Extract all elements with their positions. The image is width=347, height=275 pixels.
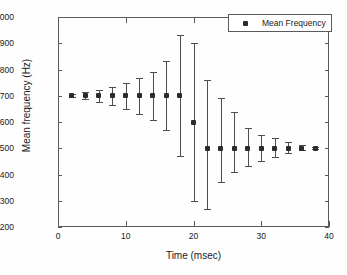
error-bar [234, 112, 235, 173]
y-tick-mark [325, 227, 329, 228]
legend-marker-icon [243, 21, 248, 26]
error-bar-cap [272, 157, 279, 158]
error-bar-cap [258, 161, 265, 162]
error-bar-cap [231, 112, 238, 113]
data-point-marker [218, 146, 223, 151]
y-tick-mark [325, 175, 329, 176]
data-point-marker [150, 93, 155, 98]
legend: Mean Frequency [228, 14, 332, 32]
y-tick-label: 1700 [0, 92, 14, 101]
data-point-marker [164, 93, 169, 98]
error-bar-cap [109, 105, 116, 106]
data-point-marker [272, 146, 277, 151]
error-bar-cap [191, 43, 198, 44]
data-point-marker [313, 146, 318, 151]
data-point-marker [69, 93, 74, 98]
error-bar-cap [123, 109, 130, 110]
x-tick-mark [329, 221, 330, 227]
y-tick-label: 1500 [0, 144, 14, 153]
y-tick-label: 1400 [0, 171, 14, 180]
data-point-marker [191, 120, 196, 125]
error-bar-cap [163, 61, 170, 62]
y-tick-mark [325, 148, 329, 149]
y-tick-mark [58, 122, 62, 123]
x-tick-mark [261, 221, 262, 227]
data-point-marker [110, 93, 115, 98]
y-tick-mark [58, 70, 62, 71]
x-tick-label: 40 [314, 232, 344, 241]
error-bar-cap [204, 80, 211, 81]
error-bar-cap [218, 182, 225, 183]
error-bar-cap [150, 120, 157, 121]
data-point-marker [245, 146, 250, 151]
y-tick-label: 1300 [0, 197, 14, 206]
error-bar-cap [245, 128, 252, 129]
error-bar-cap [191, 201, 198, 202]
x-tick-mark [126, 221, 127, 227]
error-bar-cap [177, 35, 184, 36]
error-bar [207, 80, 208, 209]
data-point-marker [205, 146, 210, 151]
x-tick-label: 10 [111, 232, 141, 241]
y-tick-mark [325, 96, 329, 97]
y-tick-label: 1800 [0, 66, 14, 75]
y-axis-title: Mean frequency (Hz) [21, 26, 32, 186]
x-tick-label: 20 [179, 232, 209, 241]
y-tick-label: 1200 [0, 223, 14, 232]
x-axis-title: Time (msec) [58, 250, 329, 261]
y-tick-mark [58, 148, 62, 149]
data-point-marker [286, 146, 291, 151]
y-tick-mark [325, 201, 329, 202]
y-tick-mark [58, 96, 62, 97]
x-tick-label: 30 [246, 232, 276, 241]
error-bar-cap [231, 172, 238, 173]
error-bar [221, 98, 222, 182]
y-tick-mark [325, 122, 329, 123]
error-bar-cap [204, 209, 211, 210]
error-bar-cap [272, 138, 279, 139]
error-bar-cap [218, 98, 225, 99]
error-bar-cap [245, 166, 252, 167]
error-bar-cap [163, 130, 170, 131]
y-tick-label: 1600 [0, 118, 14, 127]
error-bar-cap [96, 90, 103, 91]
y-tick-label: 2000 [0, 13, 14, 22]
error-bar-cap [109, 87, 116, 88]
error-bar-cap [285, 142, 292, 143]
x-tick-mark [126, 18, 127, 23]
chart-figure: 120013001400150016001700180019002000 010… [0, 0, 347, 275]
error-bar-cap [123, 83, 130, 84]
data-point-marker [232, 146, 237, 151]
error-bar-cap [285, 153, 292, 154]
x-tick-label: 0 [43, 232, 73, 241]
y-tick-label: 1900 [0, 39, 14, 48]
error-bar-cap [82, 99, 89, 100]
data-point-marker [177, 93, 182, 98]
error-bar-cap [150, 72, 157, 73]
y-tick-mark [58, 175, 62, 176]
y-tick-mark [325, 70, 329, 71]
data-point-marker [299, 146, 304, 151]
error-bar-cap [258, 135, 265, 136]
y-tick-mark [325, 43, 329, 44]
data-point-marker [96, 93, 101, 98]
error-bar-cap [96, 102, 103, 103]
data-point-marker [137, 93, 142, 98]
x-tick-mark [194, 18, 195, 23]
y-tick-mark [58, 201, 62, 202]
y-tick-mark [58, 227, 62, 228]
x-tick-mark [58, 221, 59, 227]
x-tick-mark [194, 221, 195, 227]
data-point-marker [83, 93, 88, 98]
error-bar-cap [136, 114, 143, 115]
error-bar-cap [177, 156, 184, 157]
data-point-marker [259, 146, 264, 151]
x-tick-mark [58, 18, 59, 23]
data-point-marker [123, 93, 128, 98]
y-tick-mark [58, 43, 62, 44]
error-bar-cap [136, 78, 143, 79]
legend-label: Mean Frequency [262, 18, 326, 28]
